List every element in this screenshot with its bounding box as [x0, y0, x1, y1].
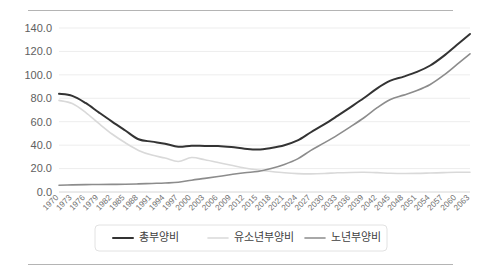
plot-area-wrapper: 0.020.040.060.080.0100.0120.0140.0 19701… [0, 14, 481, 262]
y-axis-tick-label: 120.0 [24, 45, 52, 57]
gridlines-group [59, 28, 470, 192]
y-axis-tick-label: 40.0 [31, 139, 52, 151]
legend-label[interactable]: 노년부양비 [331, 231, 381, 243]
y-axis-tick-label: 140.0 [24, 22, 52, 34]
x-axis-labels-group: 1970197319761979198219851988199119941997… [41, 193, 472, 213]
y-axis-tick-label: 20.0 [31, 162, 52, 174]
y-axis-tick-label: 60.0 [31, 116, 52, 128]
x-axis-tick-label: 2063 [452, 193, 472, 213]
series-line [59, 54, 470, 186]
y-axis-tick-label: 100.0 [24, 69, 52, 81]
y-axis-tick-label: 0.0 [37, 186, 52, 198]
chart-figure: 0.020.040.060.080.0100.0120.0140.0 19701… [0, 0, 481, 276]
legend-label[interactable]: 총부양비 [139, 231, 179, 243]
dependency-ratio-line-chart: 0.020.040.060.080.0100.0120.0140.0 19701… [0, 14, 481, 262]
y-axis-labels-group: 0.020.040.060.080.0100.0120.0140.0 [24, 22, 52, 198]
y-axis-tick-label: 80.0 [31, 92, 52, 104]
series-lines-group [59, 34, 470, 185]
series-line [59, 100, 470, 173]
bottom-divider-rule [28, 264, 453, 265]
top-divider-rule [28, 10, 453, 11]
legend-label[interactable]: 유소년부양비 [234, 231, 294, 243]
chart-legend: 총부양비유소년부양비노년부양비 [95, 225, 387, 251]
